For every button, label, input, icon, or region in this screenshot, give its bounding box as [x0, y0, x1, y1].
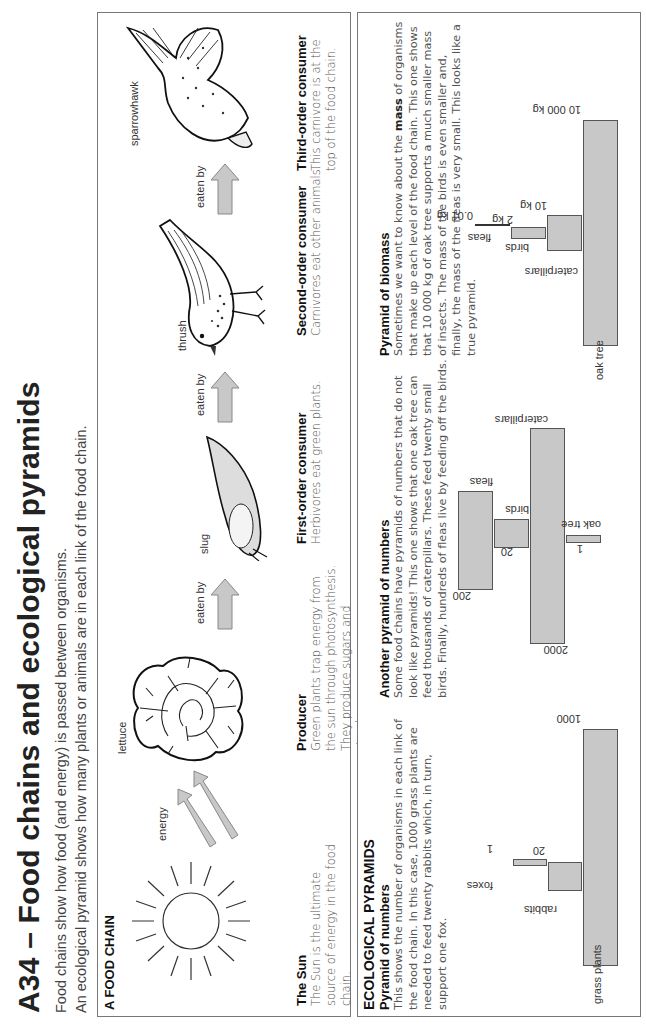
value-oak-tree: 1 [577, 543, 583, 555]
eaten-by-label-2: eaten by [194, 374, 206, 416]
bar-grass-plants [583, 729, 618, 966]
subtitle-line-2: An ecological pyramid shows how many pla… [73, 425, 89, 1013]
category-caterpillars: caterpillars [495, 414, 548, 426]
value-birds: 20 [501, 546, 513, 558]
panel-description: Some food chains have pyramids of number… [392, 358, 450, 698]
pyramid-of-biomass-chart: 0.01 kg fleas 2 kg birds 10 kg caterpill… [453, 11, 633, 356]
stage-title: First-order consumer [294, 344, 309, 544]
category-birds: birds [505, 504, 529, 516]
category-grass-plants: grass plants [591, 968, 603, 1004]
another-pyramid-of-numbers-text: Another pyramid of numbers Some food cha… [377, 358, 450, 698]
category-rabbits: rabbits [524, 904, 557, 916]
pyramid-of-numbers-text: Pyramid of numbers This shows the number… [377, 710, 450, 1010]
value-oak-tree: 10 000 kg [533, 104, 581, 116]
stage-first-order-consumer: First-order consumer Herbivores eat gree… [294, 344, 324, 544]
panel-title: Another pyramid of numbers [377, 358, 392, 698]
stage-description: Herbivores eat green plants. [309, 344, 324, 544]
stage-description: The Sun is the ultimate source of energy… [309, 836, 354, 1006]
ecological-pyramids-panel: ECOLOGICAL PYRAMIDS Pyramid of numbers T… [357, 12, 641, 1017]
stage-third-order-consumer: Third-order consumer This carnivore is a… [294, 21, 339, 171]
stage-sun: The Sun The Sun is the ultimate source o… [294, 836, 354, 1006]
energy-label: energy [156, 807, 168, 841]
value-birds: 2 kg [492, 214, 513, 226]
pyramid-of-numbers-chart: 1 foxes 20 rabbits 1000 grass plants [453, 686, 633, 1006]
sparrowhawk-icon [108, 18, 258, 158]
panel-title: Pyramid of biomass [377, 18, 392, 356]
another-pyramid-of-numbers-chart: 200 fleas 20 birds 2000 caterpillars 1 o… [453, 338, 633, 698]
bar-caterpillars [547, 215, 582, 251]
category-fleas: fleas [468, 232, 491, 244]
category-birds: birds [505, 242, 529, 254]
slug-icon [203, 431, 273, 561]
bar-caterpillars [530, 428, 565, 644]
bar-foxes [513, 859, 547, 866]
value-rabbits: 20 [533, 845, 545, 857]
panel-title: Pyramid of numbers [377, 710, 392, 1010]
stage-description: This carnivore is at the top of the food… [309, 21, 339, 171]
bar-birds [494, 519, 529, 548]
eaten-by-label-3: eaten by [194, 166, 206, 208]
panel-description: This shows the number of organisms in ea… [392, 710, 450, 1010]
stage-title: Third-order consumer [294, 21, 309, 171]
right-arrow-icon [210, 161, 240, 216]
right-arrow-icon [210, 369, 240, 424]
bar-rabbits [548, 862, 582, 891]
food-chain-panel: A FOOD CHAIN [97, 12, 351, 1017]
worksheet-page: A34 – Food chains and ecological pyramid… [0, 0, 646, 1029]
food-chain-heading: A FOOD CHAIN [102, 915, 117, 1010]
lettuce-icon [128, 651, 248, 766]
value-foxes: 1 [487, 843, 493, 855]
value-fleas: 200 [453, 590, 471, 602]
pyramids-heading: ECOLOGICAL PYRAMIDS [361, 839, 377, 1010]
bar-oak-tree [583, 120, 618, 346]
category-foxes: foxes [467, 880, 493, 892]
bar-fleas [458, 491, 493, 590]
lettuce-label: lettuce [116, 722, 128, 754]
category-caterpillars: caterpillars [525, 266, 578, 278]
bar-oak-tree [566, 535, 601, 543]
page-title: A34 – Food chains and ecological pyramid… [12, 381, 46, 1013]
value-grass-plants: 1000 [557, 713, 581, 725]
sun-icon [126, 856, 256, 986]
stage-title: Producer [294, 556, 309, 751]
value-fleas: 0.01 kg [437, 210, 473, 222]
category-oak-tree: oak tree [593, 350, 605, 380]
energy-arrows-icon [170, 761, 240, 851]
stage-title: The Sun [294, 836, 309, 1006]
thrush-icon [140, 216, 270, 366]
value-caterpillars: 2000 [544, 644, 568, 656]
bar-birds [511, 227, 546, 239]
subtitle-line-1: Food chains show how food (and energy) i… [53, 548, 69, 1013]
eaten-by-label-1: eaten by [194, 582, 206, 624]
category-fleas: fleas [470, 476, 493, 488]
category-oak-tree: oak tree [561, 519, 601, 531]
right-arrow-icon [210, 576, 240, 631]
value-caterpillars: 10 kg [520, 200, 547, 212]
